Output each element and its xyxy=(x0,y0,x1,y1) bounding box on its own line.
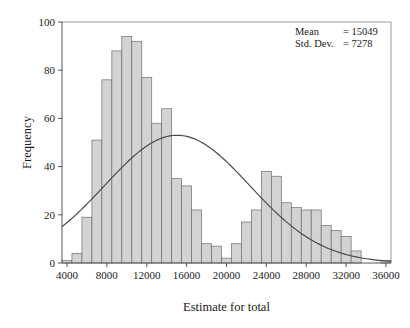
histogram-bar xyxy=(172,179,182,263)
x-tick-label: 24000 xyxy=(253,269,281,281)
histogram-bar xyxy=(331,230,341,263)
x-tick-label: 36000 xyxy=(372,269,400,281)
chart-canvas: 0204060801004000800012000160002000024000… xyxy=(0,0,410,328)
histogram-bar xyxy=(311,210,321,263)
y-tick-label: 80 xyxy=(44,64,56,76)
histogram-bar xyxy=(222,258,232,263)
stats-value: = 7278 xyxy=(343,38,373,49)
histogram-bar xyxy=(202,244,212,263)
histogram-bar xyxy=(72,253,82,263)
stats-value: = 15049 xyxy=(343,26,378,37)
x-tick-label: 8000 xyxy=(96,269,119,281)
y-tick-label: 60 xyxy=(44,112,56,124)
y-tick-label: 20 xyxy=(44,209,56,221)
histogram-bar xyxy=(231,244,241,263)
y-tick-label: 40 xyxy=(44,160,56,172)
x-tick-label: 16000 xyxy=(173,269,201,281)
histogram-bar xyxy=(112,51,122,263)
y-axis-title: Frequency xyxy=(20,115,34,169)
histogram-bar xyxy=(162,109,172,263)
x-axis-title: Estimate for total xyxy=(183,300,270,314)
histogram-bar xyxy=(291,208,301,263)
histogram-bar xyxy=(271,176,281,263)
histogram-bar xyxy=(132,41,142,263)
histogram-bar xyxy=(212,246,222,263)
histogram-bar xyxy=(102,80,112,263)
histogram-chart: 0204060801004000800012000160002000024000… xyxy=(0,0,410,328)
histogram-bar xyxy=(82,217,92,263)
histogram-bar xyxy=(142,77,152,263)
histogram-bar xyxy=(251,210,261,263)
histogram-bar xyxy=(152,123,162,263)
x-tick-label: 12000 xyxy=(133,269,161,281)
histogram-bar xyxy=(341,236,351,263)
histogram-bar xyxy=(122,36,132,263)
histogram-bar xyxy=(182,186,192,263)
y-tick-label: 100 xyxy=(39,16,56,28)
x-tick-label: 28000 xyxy=(293,269,321,281)
histogram-bar xyxy=(261,171,271,263)
histogram-bar xyxy=(241,222,251,263)
x-tick-label: 32000 xyxy=(332,269,360,281)
x-tick-label: 20000 xyxy=(213,269,241,281)
y-tick-label: 0 xyxy=(50,257,56,269)
histogram-bar xyxy=(92,140,102,263)
stats-label: Mean xyxy=(295,26,320,37)
histogram-bar xyxy=(321,226,331,263)
stats-label: Std. Dev. xyxy=(295,38,334,49)
histogram-bar xyxy=(192,210,202,263)
x-tick-label: 4000 xyxy=(56,269,79,281)
histogram-bar xyxy=(281,203,291,263)
